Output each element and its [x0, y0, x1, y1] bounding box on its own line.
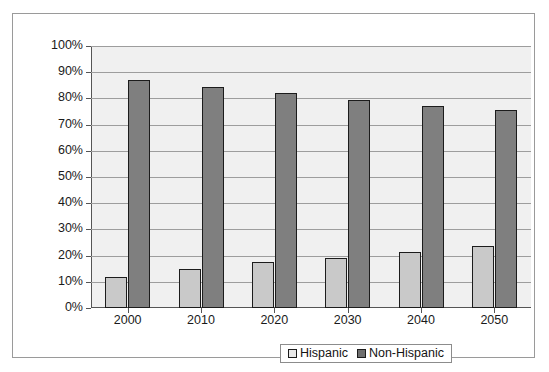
bar-hispanic-2010 — [179, 269, 201, 308]
legend-swatch-non-hispanic — [357, 349, 366, 358]
bar-hispanic-2020 — [252, 262, 274, 308]
gridline — [91, 203, 531, 204]
x-axis-tick-label: 2000 — [88, 313, 168, 327]
y-axis-tick-label: 70% — [21, 118, 83, 131]
bar-non-hispanic-2050 — [495, 110, 517, 308]
y-tick-mark — [86, 151, 91, 152]
chart-legend: Hispanic Non-Hispanic — [280, 344, 452, 363]
gridline — [91, 46, 531, 47]
x-axis-tick-label: 2050 — [454, 313, 534, 327]
x-axis-tick-label: 2040 — [381, 313, 461, 327]
legend-item-hispanic: Hispanic — [288, 347, 348, 360]
y-axis-tick-label: 80% — [21, 91, 83, 104]
gridline — [91, 125, 531, 126]
y-axis-tick-label: 20% — [21, 249, 83, 262]
y-axis-tick-label: 60% — [21, 144, 83, 157]
gridline — [91, 177, 531, 178]
bar-hispanic-2000 — [105, 277, 127, 308]
bar-non-hispanic-2040 — [422, 106, 444, 308]
y-tick-mark — [86, 177, 91, 178]
y-axis-tick-label: 40% — [21, 196, 83, 209]
gridline — [91, 98, 531, 99]
bar-non-hispanic-2000 — [128, 80, 150, 308]
bar-hispanic-2050 — [472, 246, 494, 308]
legend-item-non-hispanic: Non-Hispanic — [357, 347, 444, 360]
y-tick-mark — [86, 308, 91, 309]
chart-frame: 0%10%20%30%40%50%60%70%80%90%100% 200020… — [12, 13, 535, 358]
y-tick-mark — [86, 256, 91, 257]
bar-non-hispanic-2020 — [275, 93, 297, 308]
y-axis-tick-label: 90% — [21, 65, 83, 78]
x-axis-tick-label: 2030 — [308, 313, 388, 327]
gridline — [91, 72, 531, 73]
y-axis-tick-label: 10% — [21, 275, 83, 288]
y-tick-mark — [86, 229, 91, 230]
x-axis-tick-label: 2020 — [234, 313, 314, 327]
plot-wrapper — [91, 46, 531, 308]
y-tick-mark — [86, 203, 91, 204]
y-axis-tick-label: 0% — [21, 301, 83, 314]
gridline — [91, 256, 531, 257]
bar-hispanic-2030 — [325, 258, 347, 308]
bar-hispanic-2040 — [399, 252, 421, 308]
gridline — [91, 229, 531, 230]
legend-swatch-hispanic — [288, 349, 297, 358]
y-axis-tick-label: 100% — [21, 39, 83, 52]
y-tick-mark — [86, 282, 91, 283]
legend-label-hispanic: Hispanic — [300, 347, 348, 360]
y-tick-mark — [86, 46, 91, 47]
bar-non-hispanic-2030 — [348, 100, 370, 308]
y-tick-mark — [86, 72, 91, 73]
y-tick-mark — [86, 98, 91, 99]
y-axis-tick-label: 30% — [21, 222, 83, 235]
y-axis-tick-label: 50% — [21, 170, 83, 183]
gridline — [91, 151, 531, 152]
x-axis-tick-label: 2010 — [161, 313, 241, 327]
bar-non-hispanic-2010 — [202, 87, 224, 308]
y-tick-mark — [86, 125, 91, 126]
legend-label-non-hispanic: Non-Hispanic — [369, 347, 444, 360]
gridline — [91, 282, 531, 283]
